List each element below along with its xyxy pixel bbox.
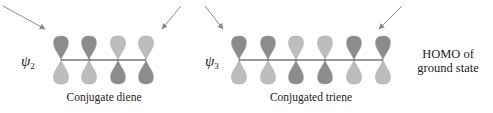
arrow-icon (3, 6, 45, 29)
orbital-top-lobe (54, 36, 69, 60)
arrow-icon (162, 6, 181, 29)
diene-psi-label: ψ2 (21, 53, 35, 71)
orbital-top-lobe (347, 36, 362, 60)
homo-label-line2: ground state (417, 61, 479, 75)
orbital-bottom-lobe (82, 60, 97, 84)
orbital-bottom-lobe (139, 60, 154, 84)
homo-label-line1: HOMO of (422, 47, 475, 61)
attack-arrows (3, 6, 402, 29)
triene-orbital-group (232, 36, 391, 84)
triene-psi-label: ψ3 (205, 53, 219, 71)
orbital-top-lobe (261, 36, 276, 60)
orbital-top-lobe (139, 36, 154, 60)
orbital-bottom-lobe (111, 60, 126, 84)
orbital-top-lobe (82, 36, 97, 60)
diene-orbital-group (54, 36, 154, 84)
orbital-bottom-lobe (376, 60, 391, 84)
orbital-bottom-lobe (232, 60, 247, 84)
orbital-top-lobe (376, 36, 391, 60)
orbital-top-lobe (318, 36, 333, 60)
arrow-icon (205, 6, 223, 29)
triene-caption: Conjugated triene (270, 91, 352, 104)
orbital-diagram: ψ2 ψ3 Conjugate diene Conjugated triene … (0, 0, 493, 113)
orbital-bottom-lobe (54, 60, 69, 84)
orbital-bottom-lobe (289, 60, 304, 84)
orbital-bottom-lobe (261, 60, 276, 84)
orbital-bottom-lobe (347, 60, 362, 84)
orbital-top-lobe (111, 36, 126, 60)
arrow-icon (379, 6, 402, 29)
diene-caption: Conjugate diene (66, 91, 141, 104)
orbital-top-lobe (232, 36, 247, 60)
orbital-bottom-lobe (318, 60, 333, 84)
orbital-top-lobe (289, 36, 304, 60)
